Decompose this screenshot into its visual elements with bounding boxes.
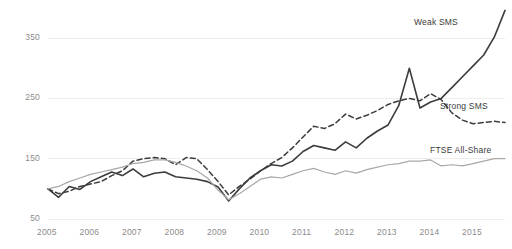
series-label-ftse-all-share: FTSE All-Share (430, 145, 491, 155)
x-axis-tick-label-2014: 2014 (420, 227, 440, 237)
y-axis-tick-label-150: 150 (25, 153, 40, 163)
y-axis-tick-label-250: 250 (25, 92, 40, 102)
x-axis-tick-label-2005: 2005 (37, 227, 57, 237)
series-line-weak-sms (48, 10, 505, 201)
x-axis-tick-label-2012: 2012 (335, 227, 355, 237)
line-chart: 5015025035020052006200720082009201020112… (0, 0, 512, 249)
x-axis-tick-label-2008: 2008 (165, 227, 185, 237)
x-axis-tick-label-2006: 2006 (80, 227, 100, 237)
x-axis-tick-label-2011: 2011 (292, 227, 311, 237)
y-axis-tick-label-50: 50 (30, 213, 40, 223)
x-axis-tick-label-2015: 2015 (462, 227, 482, 237)
x-axis-tick-label-2009: 2009 (207, 227, 227, 237)
x-axis-tick-label-2010: 2010 (250, 227, 270, 237)
x-axis-tick-label-2013: 2013 (377, 227, 397, 237)
plot-area (0, 0, 512, 249)
x-axis-tick-label-2007: 2007 (122, 227, 142, 237)
series-label-weak-sms: Weak SMS (414, 17, 458, 27)
y-axis-tick-label-350: 350 (25, 32, 40, 42)
series-label-strong-sms: Strong SMS (440, 101, 488, 111)
